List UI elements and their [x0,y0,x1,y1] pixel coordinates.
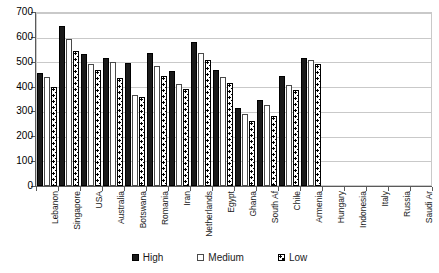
bar-lebanon-medium [44,77,50,186]
x-category-label-lebanon: Lebanon [51,191,60,249]
bar-australia-high [103,58,109,187]
bar-group [80,12,102,186]
bar-group [102,12,124,186]
bar-armenia-high [301,58,307,186]
x-category-label-indonesia: Indonesia [359,191,368,249]
x-category-label-ghana: Ghana [249,191,258,249]
x-category-label-hungary: Hungary [337,191,346,249]
x-category-label-singapore: Singapore [73,191,82,249]
bar-group [278,12,300,186]
bar-south-af-medium [264,105,270,186]
x-category-label-chile: Chile [293,191,302,249]
x-axis-category-labels: LebanonSingaporeUSAAustraliaBotswanaRoma… [36,191,432,249]
legend-item-high[interactable]: High [132,252,164,263]
bar-group [344,12,366,186]
y-tick-label-700: 700 [0,7,33,17]
bar-chart: 7006005004003002001000 LebanonSingaporeU… [0,0,439,273]
bar-egypt-low [227,83,233,186]
bar-group [124,12,146,186]
bar-group [212,12,234,186]
bar-group [366,12,388,186]
x-category-label-egypt: Egypt [227,191,236,249]
bar-netherlands-medium [198,53,204,186]
bar-botswana-high [125,63,131,186]
bar-netherlands-high [191,42,197,186]
x-category-label-italy: Italy [381,191,390,249]
bar-group [322,12,344,186]
chart-legend: HighMediumLow [0,252,439,263]
bar-group [146,12,168,186]
x-category-label-south-af: South Af [271,191,280,249]
x-category-label-australia: Australia [117,191,126,249]
bar-group [234,12,256,186]
bar-australia-low [117,78,123,186]
bar-singapore-high [59,26,65,186]
bar-group [410,12,432,186]
bar-usa-high [81,54,87,186]
bar-botswana-low [139,97,145,186]
legend-label: Low [289,252,307,263]
x-category-label-armenia: Armenia [315,191,324,249]
legend-swatch-medium-icon [197,254,204,261]
bar-group [256,12,278,186]
y-tick-label-300: 300 [0,106,33,116]
bar-group [36,12,58,186]
y-tick-label-0: 0 [0,181,33,191]
bar-romania-medium [154,66,160,186]
x-category-label-botswana: Botswana [139,191,148,249]
x-category-label-saudi-ar: Saudi Ar [425,191,434,249]
bar-group [190,12,212,186]
legend-label: High [143,252,164,263]
y-tick-label-500: 500 [0,57,33,67]
bar-egypt-medium [220,77,226,186]
legend-swatch-high-icon [132,254,139,261]
bar-armenia-medium [308,60,314,186]
bar-ghana-high [235,108,241,186]
bar-romania-high [147,53,153,186]
bar-group [388,12,410,186]
bar-iran-medium [176,84,182,186]
y-tick-label-400: 400 [0,82,33,92]
legend-swatch-low-icon [278,254,285,261]
bar-chile-medium [286,85,292,186]
bar-ghana-medium [242,114,248,186]
bar-australia-medium [110,62,116,186]
bar-netherlands-low [205,60,211,186]
bar-usa-low [95,70,101,186]
bar-group [168,12,190,186]
bar-botswana-medium [132,95,138,186]
bars-layer [36,12,432,186]
figure-caption [0,268,439,273]
bar-singapore-low [73,51,79,186]
x-category-label-romania: Romania [161,191,170,249]
legend-item-medium[interactable]: Medium [197,252,244,263]
bar-usa-medium [88,64,94,186]
bar-egypt-high [213,70,219,186]
x-category-label-russia: Russia [403,191,412,249]
bar-chile-high [279,76,285,186]
bar-lebanon-low [51,87,57,186]
x-category-label-iran: Iran [183,191,192,249]
bar-south-af-low [271,116,277,186]
bar-chile-low [293,90,299,186]
x-category-label-usa: USA [95,191,104,249]
bar-group [300,12,322,186]
bar-ghana-low [249,121,255,186]
y-tick-label-200: 200 [0,131,33,141]
y-tick-label-100: 100 [0,156,33,166]
legend-item-low[interactable]: Low [278,252,307,263]
bar-lebanon-high [37,73,43,186]
bar-romania-low [161,76,167,186]
bar-armenia-low [315,64,321,186]
bar-singapore-medium [66,39,72,186]
bar-south-af-high [257,100,263,186]
bar-iran-low [183,89,189,186]
legend-label: Medium [208,252,244,263]
x-category-label-netherlands: Netherlands [205,191,214,249]
bar-iran-high [169,71,175,186]
y-tick-label-600: 600 [0,32,33,42]
bar-group [58,12,80,186]
